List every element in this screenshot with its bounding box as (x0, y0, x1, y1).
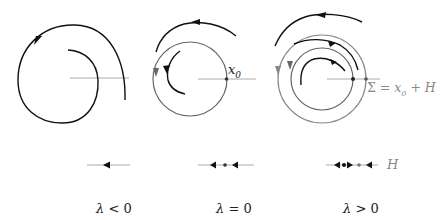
arrow-icon (34, 36, 42, 45)
arrow-left-icon (232, 162, 238, 169)
phase-line-lambda-positive (326, 162, 378, 169)
outer-trajectory (275, 14, 362, 46)
outer-trajectory (156, 23, 236, 53)
arrow-icon (330, 59, 337, 65)
arrow-icon (163, 65, 170, 74)
arrow-icon (316, 12, 326, 18)
caption-lambda-negative: λ < 0 (96, 201, 132, 216)
arrow-icon (287, 61, 293, 70)
arrow-right-icon (347, 162, 353, 169)
fixed-point (223, 163, 227, 167)
phase-line-lambda-negative (87, 162, 130, 169)
panel-lambda-negative (18, 25, 129, 123)
unstable-fixed-point (357, 163, 361, 167)
arrow-left-icon (210, 162, 216, 169)
diagram-canvas (0, 0, 444, 220)
phase-line-lambda-zero (198, 162, 254, 169)
inner-trajectory (168, 51, 186, 94)
spiral-trajectory (18, 25, 125, 123)
arrow-left-icon (366, 162, 372, 169)
fixed-point-inner (351, 77, 355, 81)
section-label: Σ = x0 + H (367, 80, 436, 98)
arrow-left-icon (103, 162, 110, 169)
h-axis-label: H (387, 157, 398, 172)
arrow-left-icon (334, 162, 340, 169)
x0-label: x0 (228, 62, 241, 80)
caption-lambda-positive: λ > 0 (343, 201, 379, 216)
inner-trajectory (301, 58, 345, 85)
panel-lambda-positive (275, 12, 380, 123)
arrow-icon (191, 19, 200, 25)
stable-fixed-point (342, 163, 346, 167)
arrow-icon (275, 66, 281, 75)
caption-lambda-zero: λ = 0 (216, 201, 252, 216)
